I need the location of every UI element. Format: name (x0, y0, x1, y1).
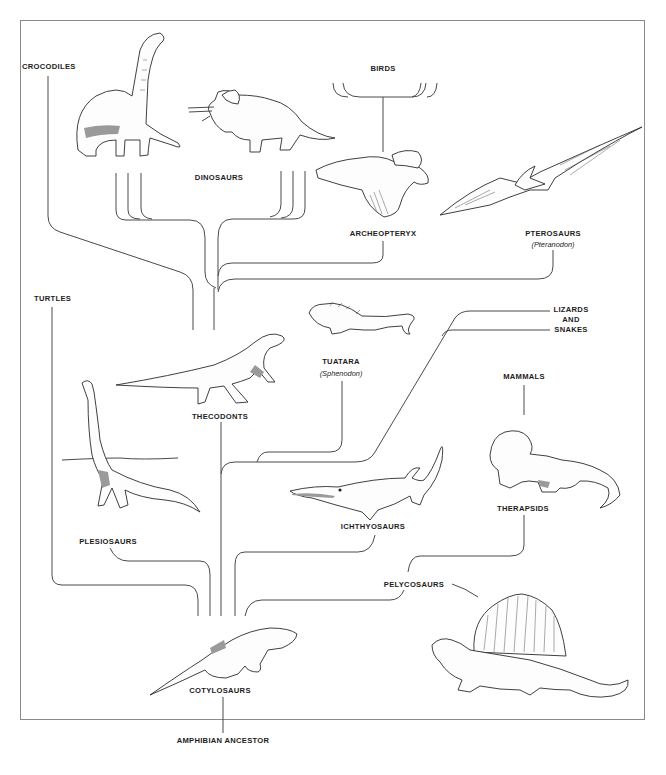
label-ichthyosaurs: ICHTHYOSAURS (341, 523, 405, 531)
label-pteranodon: (Pteranodon) (531, 241, 574, 248)
label-lizards: LIZARDS (553, 306, 588, 314)
brachiosaurus-illustration (77, 33, 180, 156)
line-ichthyosaurs (235, 535, 375, 616)
label-pelycosaurs: PELYCOSAURS (384, 581, 444, 589)
line-birds-fan-4 (427, 83, 437, 97)
dimetrodon-illustration (432, 594, 628, 697)
label-snakes: SNAKES (554, 326, 587, 334)
label-sphenodon: (Sphenodon) (320, 370, 363, 377)
line-birds-fan-2 (333, 83, 348, 97)
thecodont-illustration (116, 334, 284, 404)
line-dinosaurs-right-1 (218, 171, 305, 290)
line-dinosaurs-right-3 (270, 171, 281, 217)
line-pelycosaurs (245, 590, 404, 616)
line-pterosaurs (218, 250, 553, 292)
label-pterosaurs: PTEROSAURS (525, 230, 581, 238)
line-turtles (52, 307, 198, 616)
line-dinosaurs-left-3 (141, 173, 152, 219)
line-dinosaurs-left-2 (128, 173, 140, 219)
label-cotylosaurs: COTYLOSAURS (189, 687, 251, 695)
water-line (62, 458, 178, 460)
line-tuatara (257, 381, 342, 462)
label-tuatara: TUATARA (322, 358, 360, 366)
line-birds-fan-1 (343, 83, 426, 97)
cotylosaur-illustration (150, 628, 297, 695)
label-turtles: TURTLES (34, 295, 71, 303)
therapsid-illustration (490, 431, 620, 508)
label-mammals: MAMMALS (503, 373, 545, 381)
label-crocodiles: CROCODILES (22, 63, 76, 71)
pteranodon-illustration (440, 127, 642, 215)
line-therapsids (408, 515, 524, 572)
label-amphibian-ancestor: AMPHIBIAN ANCESTOR (177, 737, 270, 745)
line-pelycosaur-pointer (452, 584, 478, 597)
plesiosaur-illustration (62, 381, 200, 512)
label-plesiosaurs: PLESIOSAURS (79, 538, 137, 546)
line-archeopteryx (218, 241, 383, 276)
ichthyosaur-illustration (290, 447, 443, 520)
archeopteryx-illustration (316, 151, 428, 217)
line-dinosaurs-right-2 (281, 171, 293, 218)
phylogenetic-tree-lines (0, 0, 666, 775)
label-thecodonts: THECODONTS (192, 413, 248, 421)
tuatara-illustration (309, 302, 414, 334)
line-plesiosaurs (110, 548, 210, 616)
triceratops-illustration (188, 90, 335, 152)
label-birds: BIRDS (370, 65, 395, 73)
label-therapsids: THERAPSIDS (497, 505, 549, 513)
label-archeopteryx: ARCHEOPTERYX (350, 230, 417, 238)
line-lizards-lower (442, 330, 550, 336)
line-dinosaurs-left-1 (116, 173, 216, 288)
label-dinosaurs: DINOSAURS (195, 174, 243, 182)
label-and: AND (562, 316, 579, 324)
